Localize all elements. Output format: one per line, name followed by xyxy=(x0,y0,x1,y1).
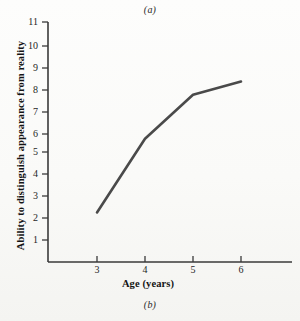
x-tick-label-3: 3 xyxy=(90,264,104,275)
y-tick-label-4: 4 xyxy=(24,168,38,179)
y-tick-label-6: 6 xyxy=(24,128,38,139)
x-axis-ticks xyxy=(97,256,241,262)
data-series-line xyxy=(97,82,241,213)
x-tick-label-6: 6 xyxy=(234,264,248,275)
y-tick-label-1: 1 xyxy=(24,234,38,245)
y-tick-label-10: 10 xyxy=(24,40,38,51)
x-tick-label-5: 5 xyxy=(186,264,200,275)
y-axis-label: Ability to distinguish appearance from r… xyxy=(15,31,26,261)
x-tick-label-4: 4 xyxy=(138,264,152,275)
y-axis-ticks xyxy=(42,22,48,240)
y-tick-label-8: 8 xyxy=(24,84,38,95)
y-tick-label-9: 9 xyxy=(24,62,38,73)
y-tick-label-11: 11 xyxy=(24,16,38,27)
y-tick-label-7: 7 xyxy=(24,106,38,117)
y-tick-label-3: 3 xyxy=(24,190,38,201)
y-tick-label-5: 5 xyxy=(24,146,38,157)
figure-page: (a) 11 10 9 8 7 xyxy=(0,0,300,321)
x-axis-label: Age (years) xyxy=(48,278,248,289)
figure-label-b: (b) xyxy=(0,299,300,310)
y-tick-label-2: 2 xyxy=(24,212,38,223)
